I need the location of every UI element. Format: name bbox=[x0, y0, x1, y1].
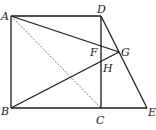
label-F: F bbox=[89, 46, 98, 59]
segment-AG bbox=[11, 16, 119, 52]
label-D: D bbox=[96, 3, 106, 16]
label-G: G bbox=[121, 46, 130, 59]
label-A: A bbox=[0, 10, 9, 23]
label-E: E bbox=[147, 106, 156, 119]
label-B: B bbox=[0, 105, 9, 118]
geometry-diagram: A D F G H B C E bbox=[0, 0, 156, 130]
label-C: C bbox=[96, 114, 105, 127]
label-H: H bbox=[102, 62, 113, 75]
segment-AC-dashed bbox=[11, 16, 101, 108]
segment-BG bbox=[11, 52, 119, 108]
